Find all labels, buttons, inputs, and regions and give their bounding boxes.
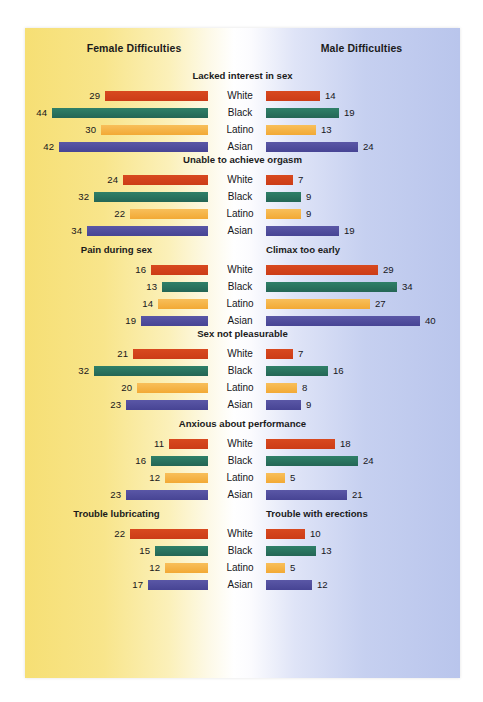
category-label-asian: Asian <box>208 223 272 239</box>
female-bar-cell: 15 <box>25 543 208 559</box>
bar-female-asian <box>126 490 208 500</box>
category-label-latino: Latino <box>208 560 272 576</box>
bar-female-latino <box>165 473 208 483</box>
bar-male-black <box>266 546 316 556</box>
bar-female-latino <box>158 299 208 309</box>
bar-row: 23Asian9 <box>25 397 460 413</box>
male-bar-cell: 19 <box>266 223 460 239</box>
bar-value-female: 11 <box>154 436 164 452</box>
bar-value-female: 29 <box>89 88 100 104</box>
bar-value-female: 42 <box>43 139 54 155</box>
male-bar-cell: 16 <box>266 363 460 379</box>
female-bar-cell: 17 <box>25 577 208 593</box>
bar-female-latino <box>137 383 208 393</box>
bar-female-latino <box>101 125 208 135</box>
category-label-black: Black <box>208 189 272 205</box>
column-header-male: Male Difficulties <box>263 42 460 54</box>
category-label-asian: Asian <box>208 397 272 413</box>
bar-female-asian <box>59 142 208 152</box>
bar-male-black <box>266 192 301 202</box>
category-label-latino: Latino <box>208 206 272 222</box>
female-bar-cell: 29 <box>25 88 208 104</box>
bar-row: 20Latino8 <box>25 380 460 396</box>
bar-value-male: 24 <box>363 453 374 469</box>
bar-value-female: 15 <box>139 543 150 559</box>
female-bar-cell: 44 <box>25 105 208 121</box>
category-label-latino: Latino <box>208 470 272 486</box>
bar-male-white <box>266 91 320 101</box>
bar-male-black <box>266 282 397 292</box>
bar-female-black <box>162 282 208 292</box>
bar-female-white <box>123 175 208 185</box>
bar-female-black <box>155 546 208 556</box>
bar-female-white <box>151 265 208 275</box>
category-label-black: Black <box>208 363 272 379</box>
male-bar-cell: 9 <box>266 397 460 413</box>
bar-value-female: 32 <box>78 363 89 379</box>
female-bar-cell: 12 <box>25 560 208 576</box>
bar-value-female: 16 <box>135 453 146 469</box>
bar-value-male: 10 <box>310 526 321 542</box>
bar-value-male: 13 <box>321 122 332 138</box>
bar-value-female: 20 <box>121 380 132 396</box>
category-label-white: White <box>208 88 272 104</box>
bar-value-female: 22 <box>114 206 125 222</box>
bar-row: 13Black34 <box>25 279 460 295</box>
category-label-black: Black <box>208 105 272 121</box>
male-bar-cell: 9 <box>266 206 460 222</box>
bar-male-latino <box>266 383 297 393</box>
bar-value-female: 23 <box>110 487 121 503</box>
male-bar-cell: 34 <box>266 279 460 295</box>
bar-male-latino <box>266 125 316 135</box>
bar-male-white <box>266 349 293 359</box>
bar-value-male: 5 <box>290 470 295 486</box>
bar-male-asian <box>266 142 358 152</box>
bar-value-male: 9 <box>306 189 311 205</box>
category-label-white: White <box>208 526 272 542</box>
category-label-latino: Latino <box>208 296 272 312</box>
bar-male-latino <box>266 209 301 219</box>
section-title: Anxious about performance <box>25 418 460 429</box>
bar-female-black <box>151 456 208 466</box>
bar-value-male: 27 <box>375 296 386 312</box>
bar-value-male: 40 <box>425 313 436 329</box>
bar-value-male: 12 <box>317 577 328 593</box>
bar-row: 22White10 <box>25 526 460 542</box>
female-bar-cell: 42 <box>25 139 208 155</box>
female-bar-cell: 23 <box>25 397 208 413</box>
bar-value-female: 30 <box>85 122 96 138</box>
bar-row: 12Latino5 <box>25 470 460 486</box>
section-title-female: Pain during sex <box>25 244 208 255</box>
male-bar-cell: 8 <box>266 380 460 396</box>
bar-row: 30Latino13 <box>25 122 460 138</box>
bar-value-female: 24 <box>107 172 118 188</box>
female-bar-cell: 24 <box>25 172 208 188</box>
bar-row: 42Asian24 <box>25 139 460 155</box>
bar-row: 44Black19 <box>25 105 460 121</box>
female-bar-cell: 16 <box>25 262 208 278</box>
male-bar-cell: 24 <box>266 453 460 469</box>
male-bar-cell: 9 <box>266 189 460 205</box>
category-label-latino: Latino <box>208 122 272 138</box>
bar-row: 12Latino5 <box>25 560 460 576</box>
male-bar-cell: 5 <box>266 470 460 486</box>
category-label-asian: Asian <box>208 577 272 593</box>
bar-male-latino <box>266 299 370 309</box>
female-bar-cell: 34 <box>25 223 208 239</box>
category-label-white: White <box>208 172 272 188</box>
bar-value-male: 18 <box>340 436 351 452</box>
male-bar-cell: 13 <box>266 543 460 559</box>
category-label-black: Black <box>208 453 272 469</box>
bar-female-latino <box>130 209 208 219</box>
bar-value-female: 19 <box>125 313 136 329</box>
bar-value-male: 8 <box>302 380 307 396</box>
column-header-female: Female Difficulties <box>25 42 243 54</box>
female-bar-cell: 22 <box>25 526 208 542</box>
bar-value-male: 7 <box>298 172 303 188</box>
bar-value-male: 29 <box>383 262 394 278</box>
bar-value-female: 32 <box>78 189 89 205</box>
bar-male-asian <box>266 400 301 410</box>
female-bar-cell: 23 <box>25 487 208 503</box>
category-label-black: Black <box>208 279 272 295</box>
category-label-asian: Asian <box>208 139 272 155</box>
